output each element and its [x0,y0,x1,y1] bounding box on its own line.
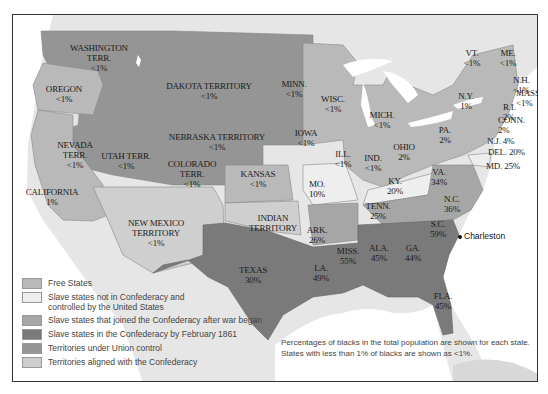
region-label-ala: ALA.45% [369,243,389,263]
map-footnote: Percentages of blacks in the total popul… [281,337,530,359]
region-label-kansas: KANSAS<1% [241,169,276,189]
region-label-mass: MASS.<1% [516,88,538,108]
legend-swatch-icon [22,315,42,326]
region-label-fla: FLA.45% [434,291,452,311]
region-label-ill: ILL.<1% [335,149,351,169]
region-label-iowa: IOWA<1% [295,128,318,148]
city-label-charleston: Charleston [464,231,505,241]
region-label-vt: VT.<1% [464,48,480,68]
region-label-mo: MO.10% [309,179,325,199]
legend-swatch-icon [22,357,42,368]
region-label-miss: MISS.55% [337,246,359,266]
region-label-va: VA.34% [431,167,447,187]
region-label-conn: CONN.2% [498,115,525,135]
legend-item-confederacy-feb-1861: Slave states in the Confederacy by Febru… [22,329,262,340]
region-label-oregon: OREGON<1% [46,84,82,104]
region-label-la: LA.49% [313,263,329,283]
region-label-ind: IND.<1% [364,153,381,173]
legend-swatch-icon [22,343,42,354]
region-label-dakota-territory: DAKOTA TERRITORY<1% [166,81,252,101]
legend-swatch-icon [22,292,42,303]
region-label-md: MD. 25% [486,161,520,171]
legend-item-union-territories: Territories under Union control [22,343,262,354]
legend-swatch-icon [22,278,42,289]
region-label-me: ME.<1% [500,48,516,68]
region-label-new-mexico-territory: NEW MEXICOTERRITORY<1% [128,218,184,248]
legend-item-confederate-territories: Territories aligned with the Confederacy [22,357,262,368]
region-label-colorado-terr: COLORADOTERR.<1% [168,159,216,189]
region-label-nevada-terr: NEVADATERR.<1% [57,140,93,170]
region-label-washington-terr: WASHINGTONTERR.<1% [70,43,128,73]
map-legend: Free States Slave states not in Confeder… [22,278,262,371]
region-label-mich: MICH.<1% [370,110,395,130]
legend-item-free-states: Free States [22,278,262,289]
region-label-nebraska-territory: NEBRASKA TERRITORY<1% [169,132,265,152]
region-label-ohio: OHIO2% [393,142,415,162]
legend-item-border-slave: Slave states not in Confederacy and cont… [22,292,262,312]
legend-swatch-icon [22,329,42,340]
region-label-ark: ARK.26% [307,225,327,245]
region-label-ky: KY.20% [387,176,403,196]
region-label-n-y: N.Y.1% [458,91,474,111]
region-label-utah-terr: UTAH TERR.<1% [101,151,151,171]
region-label-s-c: S.C.59% [430,219,446,239]
region-label-tenn: TENN.25% [365,201,390,221]
region-label-minn: MINN.<1% [281,79,306,99]
region-label-wisc: WISC.<1% [321,94,345,114]
region-label-ga: GA.44% [405,243,421,263]
region-label-n-c: N.C.36% [444,194,460,214]
region-label-del: DEL. 20% [488,147,525,157]
charleston-marker-icon [458,235,462,239]
region-label-california: CALIFORNIA1% [26,187,79,207]
legend-item-joined-after: Slave states that joined the Confederacy… [22,315,262,326]
region-label-indian-territory: INDIANTERRITORY [249,213,297,233]
region-label-pa: PA.2% [439,125,451,145]
region-label-n-j: N.J. 4% [487,136,514,146]
